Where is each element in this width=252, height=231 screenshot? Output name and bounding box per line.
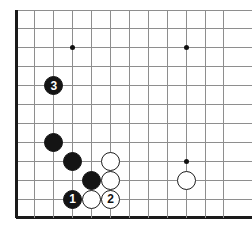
stone-black-move-1: 1	[63, 190, 82, 209]
grid-line-vertical	[34, 10, 35, 218]
board-edge-bottom	[16, 216, 252, 219]
grid-line-horizontal	[16, 66, 252, 67]
grid-line-vertical	[72, 10, 73, 218]
grid-line-vertical	[129, 10, 130, 218]
stone-black	[82, 171, 101, 190]
grid-line-horizontal	[16, 161, 252, 162]
stone-black	[44, 133, 63, 152]
grid-line-horizontal	[16, 10, 252, 11]
grid-line-vertical	[167, 10, 168, 218]
grid-line-horizontal	[16, 180, 252, 181]
grid-line-horizontal	[16, 28, 252, 29]
grid-line-vertical	[148, 10, 149, 218]
grid-line-horizontal	[16, 123, 252, 124]
stone-move-number: 1	[69, 193, 76, 205]
stone-black	[63, 152, 82, 171]
go-board-diagram: 312	[0, 0, 252, 231]
stone-white	[177, 171, 196, 190]
stone-white	[101, 171, 120, 190]
stone-white	[101, 152, 120, 171]
star-point	[70, 45, 75, 50]
star-point	[184, 159, 189, 164]
stone-black-move-3: 3	[44, 76, 63, 95]
stone-move-number: 3	[50, 79, 57, 91]
goban-grid: 312	[0, 0, 252, 231]
stone-white	[82, 190, 101, 209]
grid-line-horizontal	[16, 104, 252, 105]
grid-line-vertical	[223, 10, 224, 218]
grid-line-vertical	[205, 10, 206, 218]
grid-line-vertical	[53, 10, 54, 218]
stone-move-number: 2	[107, 193, 114, 205]
star-point	[184, 45, 189, 50]
stone-white-move-2: 2	[101, 190, 120, 209]
board-edge-left	[15, 10, 18, 218]
grid-line-horizontal	[16, 199, 252, 200]
grid-line-horizontal	[16, 47, 252, 48]
